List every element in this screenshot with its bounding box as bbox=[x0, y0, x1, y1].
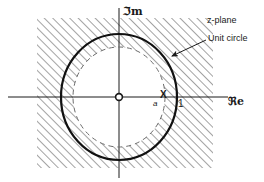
z-plane-figure: ℑm ℜe z-plane Unit circle X a 1 bbox=[0, 0, 264, 182]
real-axis-label: ℜe bbox=[228, 96, 244, 107]
region-of-convergence-hatching bbox=[37, 18, 213, 168]
z-plane-canvas bbox=[0, 0, 264, 182]
origin-marker bbox=[116, 94, 123, 101]
unit-value-label: 1 bbox=[178, 99, 184, 109]
pole-value-label: a bbox=[153, 100, 157, 108]
hatch-fill bbox=[37, 18, 213, 168]
unit-circle-label: Unit circle bbox=[208, 34, 248, 43]
imaginary-axis-label: ℑm bbox=[123, 6, 143, 17]
pole-marker-label: X bbox=[160, 90, 167, 100]
z-plane-label: z-plane bbox=[207, 16, 237, 25]
